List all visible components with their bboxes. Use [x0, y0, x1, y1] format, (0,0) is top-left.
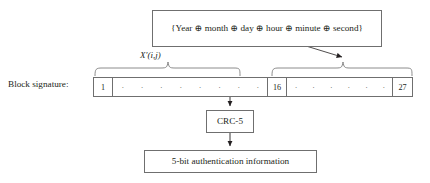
cell-ellipsis: · — [249, 78, 269, 96]
cell-ellipsis: · — [171, 78, 190, 96]
timestamp-expression-text: {Year ⊕ month ⊕ day ⊕ hour ⊕ minute ⊕ se… — [171, 23, 363, 33]
left-brace — [95, 62, 240, 76]
cell-ellipsis: · — [287, 78, 305, 96]
cell-index-27: 27 — [393, 78, 412, 96]
authentication-output-box: 5-bit authentication information — [144, 150, 317, 173]
cell-ellipsis: · — [322, 78, 340, 96]
cell-ellipsis: · — [113, 78, 132, 96]
cell-index-1: 1 — [94, 78, 113, 96]
cell-ellipsis: · — [358, 78, 376, 96]
right-brace — [272, 62, 412, 76]
timestamp-expression-box: {Year ⊕ month ⊕ day ⊕ hour ⊕ minute ⊕ se… — [152, 10, 382, 47]
block-signature-label: Block signature: — [8, 79, 68, 89]
cell-ellipsis: · — [340, 78, 358, 96]
cell-ellipsis: · — [190, 78, 209, 96]
block-signature-cell-row: 1 · · · · · · · · 16 · · · · · · 27 — [93, 77, 413, 97]
cell-ellipsis: · — [132, 78, 151, 96]
cell-ellipsis: · — [375, 78, 393, 96]
cell-ellipsis: · — [229, 78, 248, 96]
block-signature-diagram: {Year ⊕ month ⊕ day ⊕ hour ⊕ minute ⊕ se… — [0, 0, 430, 183]
crc5-label: CRC-5 — [217, 116, 243, 126]
cell-ellipsis: · — [305, 78, 323, 96]
cell-ellipsis: · — [152, 78, 171, 96]
authentication-output-label: 5-bit authentication information — [172, 156, 289, 166]
segment-label-x-prime: X′(i,j) — [140, 50, 161, 60]
cell-ellipsis: · — [210, 78, 229, 96]
crc5-box: CRC-5 — [206, 110, 254, 133]
cell-index-16: 16 — [268, 78, 287, 96]
